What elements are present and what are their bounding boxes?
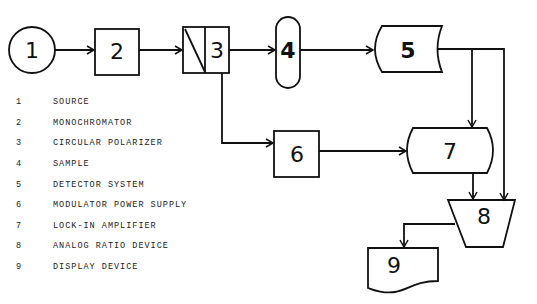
legend-number: 2 — [16, 118, 53, 128]
legend-text: ANALOG RATIO DEVICE — [53, 241, 169, 251]
legend-item: 9DISPLAY DEVICE — [16, 257, 187, 278]
legend-text: DETECTOR SYSTEM — [53, 180, 145, 190]
legend-text: CIRCULAR POLARIZER — [53, 138, 163, 148]
block-6-label: 6 — [290, 142, 304, 167]
legend-item: 7LOCK-IN AMPLIFIER — [16, 216, 187, 237]
legend-item: 5DETECTOR SYSTEM — [16, 174, 187, 195]
block-8-label: 8 — [477, 204, 491, 229]
legend-number: 4 — [16, 159, 53, 169]
block-9-display-device — [368, 248, 438, 293]
legend-item: 6MODULATOR POWER SUPPLY — [16, 195, 187, 216]
block-5-label: 5 — [400, 38, 415, 63]
legend-item: 4SAMPLE — [16, 154, 187, 175]
block-7-label: 7 — [443, 139, 457, 164]
legend-text: MONOCHROMATOR — [53, 118, 132, 128]
legend-item: 1SOURCE — [16, 92, 187, 113]
legend-text: SOURCE — [53, 97, 90, 107]
legend-text: MODULATOR POWER SUPPLY — [53, 200, 187, 210]
block-9-label: 9 — [387, 253, 401, 278]
legend-number: 5 — [16, 180, 53, 190]
legend-number: 7 — [16, 221, 53, 231]
legend-number: 1 — [16, 97, 53, 107]
legend-number: 9 — [16, 262, 53, 272]
legend-text: SAMPLE — [53, 159, 90, 169]
legend-item: 3CIRCULAR POLARIZER — [16, 133, 187, 154]
legend-text: LOCK-IN AMPLIFIER — [53, 221, 157, 231]
legend-number: 3 — [16, 138, 53, 148]
legend-text: DISPLAY DEVICE — [53, 262, 138, 272]
legend-number: 8 — [16, 241, 53, 251]
block-4-label: 4 — [280, 38, 295, 63]
block-3-label: 3 — [210, 38, 224, 63]
block-2-label: 2 — [110, 39, 124, 64]
legend: 1SOURCE 2MONOCHROMATOR 3CIRCULAR POLARIZ… — [16, 92, 187, 277]
legend-item: 8ANALOG RATIO DEVICE — [16, 236, 187, 257]
block-1-label: 1 — [25, 38, 39, 63]
legend-item: 2MONOCHROMATOR — [16, 113, 187, 134]
legend-number: 6 — [16, 200, 53, 210]
